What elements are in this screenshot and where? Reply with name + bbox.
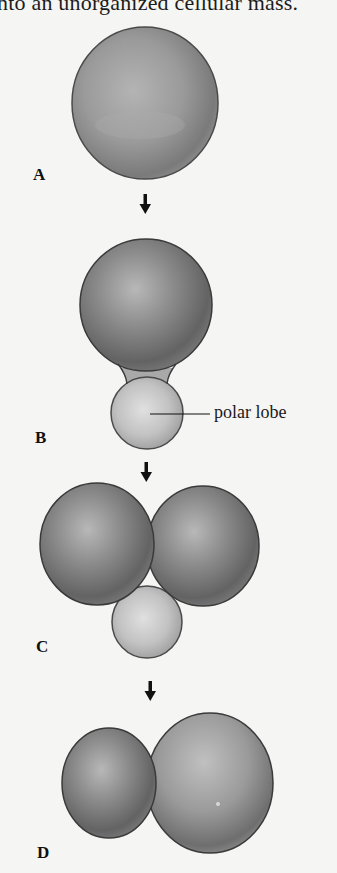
polar-lobe: [111, 377, 183, 449]
stage-b-cell: [80, 239, 212, 449]
zygote-sphere: [72, 27, 218, 179]
stage-label-c: C: [36, 637, 48, 657]
arrow-down-icon: [145, 681, 157, 701]
blastomere-cd: [147, 486, 259, 606]
stage-label-d: D: [37, 843, 49, 863]
arrow-down-icon: [141, 462, 153, 482]
cleavage-diagram: [0, 0, 337, 873]
blastomere: [80, 239, 212, 371]
stage-a-cell: [72, 27, 218, 179]
arrow-down-icon: [140, 194, 152, 214]
nucleus-dot: [216, 802, 220, 806]
zygote-highlight: [95, 111, 185, 139]
blastomere-cd: [147, 713, 273, 853]
blastomere-ab: [40, 483, 154, 605]
stage-label-b: B: [35, 428, 46, 448]
stage-label-a: A: [33, 165, 45, 185]
stage-d-cell: [62, 713, 273, 853]
stage-c-cell: [40, 483, 259, 658]
blastomere-ab: [62, 728, 156, 838]
polar-lobe-label: polar lobe: [214, 402, 286, 423]
